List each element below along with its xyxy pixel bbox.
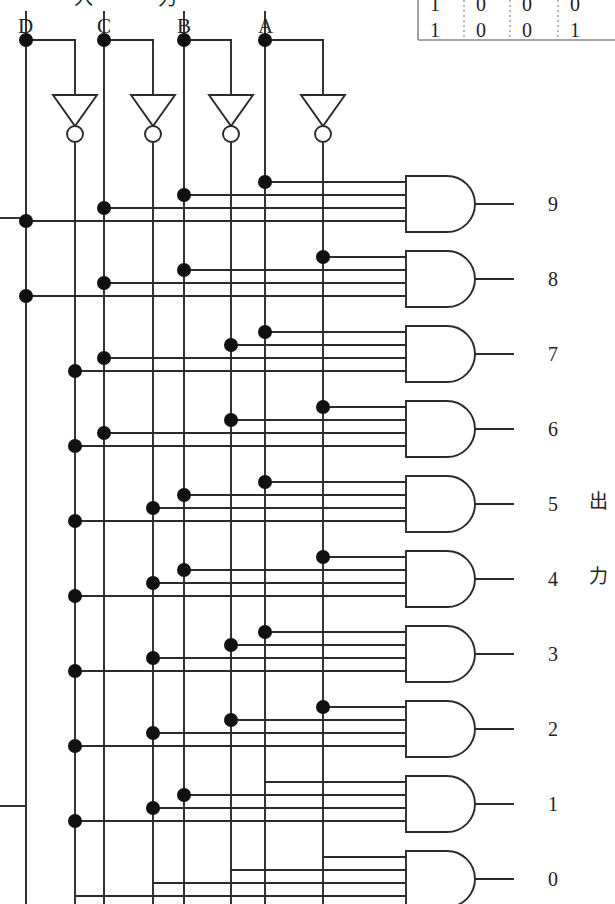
output-label-4: 4 bbox=[548, 569, 558, 589]
output-label-7: 7 bbox=[548, 344, 558, 364]
output-label-0: 0 bbox=[548, 869, 558, 889]
output-label-6: 6 bbox=[548, 419, 558, 439]
table-row: 0 bbox=[476, 20, 486, 40]
junction-dot bbox=[146, 801, 160, 815]
table-row: 1 bbox=[570, 20, 580, 40]
inverter-triangle bbox=[301, 95, 345, 126]
junction-dot bbox=[316, 250, 330, 264]
caption-output-jp-char-1: 出 bbox=[589, 492, 608, 511]
inverter-triangle bbox=[53, 95, 97, 126]
junction-dot bbox=[146, 726, 160, 740]
table-row: 1 bbox=[430, 20, 440, 40]
junction-dot bbox=[68, 589, 82, 603]
input-label-a: A bbox=[258, 16, 273, 37]
output-label-5: 5 bbox=[548, 494, 558, 514]
output-label-9: 9 bbox=[548, 194, 558, 214]
output-label-2: 2 bbox=[548, 719, 558, 739]
junction-dot bbox=[258, 475, 272, 489]
and-gate bbox=[406, 776, 475, 832]
junction-dot bbox=[68, 664, 82, 678]
junction-dot bbox=[68, 739, 82, 753]
junction-dot bbox=[177, 788, 191, 802]
inverter-triangle bbox=[131, 95, 175, 126]
caption-input-jp-char-2: 力 bbox=[158, 0, 177, 8]
input-label-b: B bbox=[177, 16, 191, 37]
and-gate bbox=[406, 251, 475, 307]
output-label-1: 1 bbox=[548, 794, 558, 814]
output-label-3: 3 bbox=[548, 644, 558, 664]
inverter-triangle bbox=[209, 95, 253, 126]
junction-dot bbox=[19, 289, 33, 303]
and-gate bbox=[406, 176, 475, 232]
junction-dot bbox=[224, 713, 238, 727]
wire-layer bbox=[0, 12, 406, 904]
and-gate bbox=[406, 326, 475, 382]
output-label-8: 8 bbox=[548, 269, 558, 289]
junction-dot bbox=[68, 814, 82, 828]
junction-dot bbox=[177, 188, 191, 202]
junction-dot bbox=[146, 501, 160, 515]
input-label-d: D bbox=[18, 16, 33, 37]
junction-dot bbox=[224, 413, 238, 427]
junction-dot bbox=[177, 563, 191, 577]
truth-table-rules bbox=[418, 0, 615, 40]
junction-dot bbox=[258, 625, 272, 639]
junction-dot bbox=[68, 439, 82, 453]
junction-dot bbox=[97, 351, 111, 365]
inverter-bubble bbox=[315, 126, 331, 142]
and-gate bbox=[406, 701, 475, 757]
table-row: 1 bbox=[430, 0, 440, 14]
junction-dot-layer bbox=[19, 33, 330, 828]
input-label-c: C bbox=[97, 16, 111, 37]
junction-dot bbox=[258, 325, 272, 339]
junction-dot bbox=[146, 576, 160, 590]
and-gate bbox=[406, 851, 475, 904]
junction-dot bbox=[68, 514, 82, 528]
junction-dot bbox=[97, 201, 111, 215]
junction-dot bbox=[258, 175, 272, 189]
table-row: 0 bbox=[522, 20, 532, 40]
caption-output-jp-char-2: 力 bbox=[589, 567, 608, 586]
junction-dot bbox=[316, 400, 330, 414]
inverter-bubble bbox=[145, 126, 161, 142]
and-gate bbox=[406, 551, 475, 607]
table-row: 0 bbox=[522, 0, 532, 14]
junction-dot bbox=[97, 276, 111, 290]
table-row: 0 bbox=[476, 0, 486, 14]
caption-input-jp-char-1: 入 bbox=[74, 0, 93, 8]
junction-dot bbox=[19, 214, 33, 228]
junction-dot bbox=[97, 426, 111, 440]
junction-dot bbox=[224, 338, 238, 352]
inverter-bubble bbox=[223, 126, 239, 142]
junction-dot bbox=[316, 550, 330, 564]
junction-dot bbox=[177, 263, 191, 277]
junction-dot bbox=[316, 700, 330, 714]
decoder-diagram bbox=[0, 0, 615, 904]
junction-dot bbox=[146, 651, 160, 665]
junction-dot bbox=[177, 488, 191, 502]
and-gate bbox=[406, 401, 475, 457]
and-gate bbox=[406, 626, 475, 682]
and-gate bbox=[406, 476, 475, 532]
inverter-bubble bbox=[67, 126, 83, 142]
junction-dot bbox=[68, 364, 82, 378]
junction-dot bbox=[224, 638, 238, 652]
table-row: 0 bbox=[570, 0, 580, 14]
